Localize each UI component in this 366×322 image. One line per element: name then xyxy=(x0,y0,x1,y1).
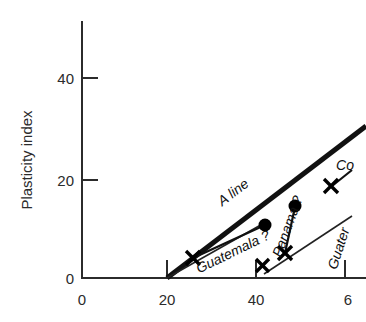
plasticity-chart-svg: 40 20 0 0 20 40 6 Plasticity index xyxy=(0,0,366,322)
x-tick-label-40: 40 xyxy=(248,291,265,308)
plasticity-chart-figure: 40 20 0 0 20 40 6 Plasticity index xyxy=(0,0,366,322)
costa-rica-label: Co xyxy=(336,157,354,173)
y-axis-title: Plasticity index xyxy=(18,110,35,210)
chart-background xyxy=(0,0,366,322)
y-tick-label-20: 20 xyxy=(57,172,74,189)
x-tick-label-0: 0 xyxy=(78,291,86,308)
x-tick-label-20: 20 xyxy=(159,291,176,308)
y-tick-label-40: 40 xyxy=(57,70,74,87)
x-tick-label-60: 6 xyxy=(344,291,352,308)
y-tick-label-0: 0 xyxy=(66,270,74,287)
